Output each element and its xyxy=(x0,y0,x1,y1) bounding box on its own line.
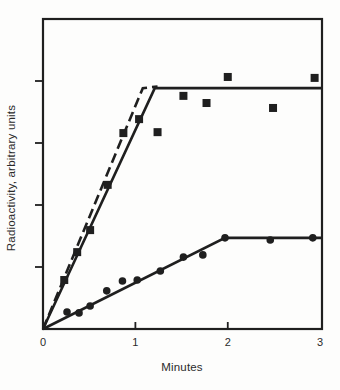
y-axis-title: Radioactivity, arbitrary units xyxy=(5,105,17,251)
circle-marker xyxy=(221,234,229,242)
square-marker xyxy=(224,73,232,81)
square-marker xyxy=(154,128,162,136)
figure: 0123 Minutes Radioactivity, arbitrary un… xyxy=(0,0,340,390)
radioactivity-time-chart: 0123 Minutes Radioactivity, arbitrary un… xyxy=(0,0,340,390)
circle-marker xyxy=(63,308,71,316)
plot-area: 0123 xyxy=(35,19,323,348)
square-marker xyxy=(60,276,68,284)
square-marker xyxy=(135,115,143,123)
x-tick-label: 3 xyxy=(317,336,323,348)
square-marker xyxy=(203,99,211,107)
circle-marker xyxy=(103,287,111,295)
plot-frame xyxy=(43,19,322,329)
square-marker xyxy=(119,129,127,137)
x-axis-title: Minutes xyxy=(161,361,203,373)
circle-marker xyxy=(86,302,94,310)
circle-marker xyxy=(133,276,141,284)
square-marker xyxy=(104,181,112,189)
circle-marker xyxy=(180,253,188,261)
x-tick-label: 0 xyxy=(40,336,46,348)
circle-marker xyxy=(199,251,207,259)
circle-marker xyxy=(309,234,317,242)
circles-solid-fit-line xyxy=(43,238,322,329)
square-marker xyxy=(311,74,319,82)
circle-marker xyxy=(266,236,274,244)
x-tick-label: 2 xyxy=(225,336,231,348)
circle-marker xyxy=(75,309,83,317)
square-marker xyxy=(86,226,94,234)
circle-marker xyxy=(157,267,165,275)
square-marker xyxy=(269,104,277,112)
circle-marker xyxy=(119,277,127,285)
x-tick-label: 1 xyxy=(132,336,138,348)
squares-solid-fit-line xyxy=(43,88,322,329)
square-marker xyxy=(179,92,187,100)
square-marker xyxy=(73,248,81,256)
